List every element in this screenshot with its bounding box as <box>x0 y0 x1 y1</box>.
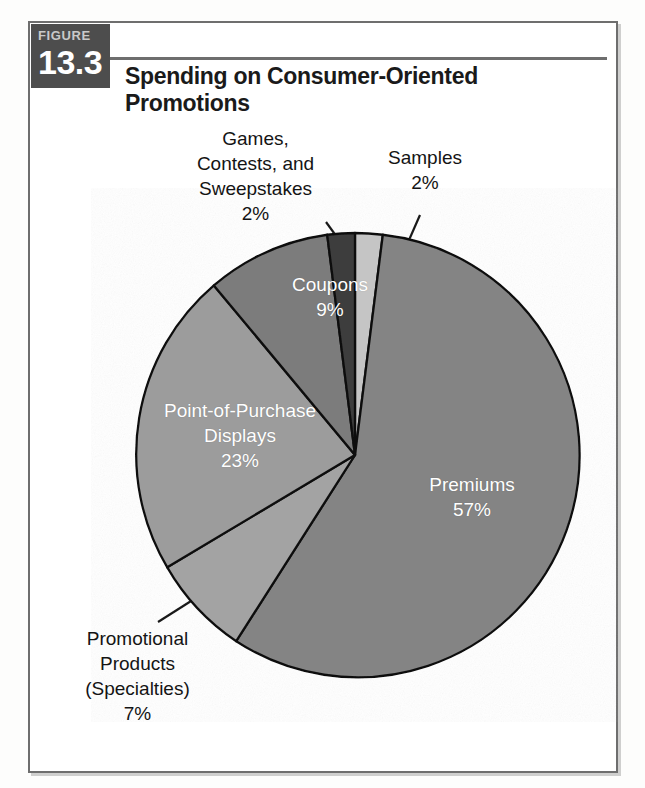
pie-label-pop-value: 23% <box>148 448 332 473</box>
pie-label-coupons-line-1: Coupons <box>262 272 398 297</box>
figure-number-label: 13.3 <box>38 44 110 80</box>
pie-label-samples-value: 2% <box>355 170 495 195</box>
pie-label-promotional-line-3: (Specialties) <box>30 676 245 701</box>
pie-label-samples-line-1: Samples <box>355 145 495 170</box>
figure-number-badge: FIGURE 13.3 <box>31 24 110 88</box>
chart-title: Spending on Consumer-Oriented Promotions <box>125 63 595 117</box>
pie-label-games-line-2: Contests, and <box>148 151 363 176</box>
pie-label-games-line-3: Sweepstakes <box>148 176 363 201</box>
pie-label-promotional-products: Promotional Products (Specialties) 7% <box>30 626 245 726</box>
figure-word-label: FIGURE <box>38 29 110 43</box>
pie-label-samples: Samples 2% <box>355 145 495 195</box>
pie-label-point-of-purchase-displays: Point-of-Purchase Displays 23% <box>148 398 332 473</box>
pie-label-coupons: Coupons 9% <box>262 272 398 322</box>
pie-label-games-contests-sweepstakes: Games, Contests, and Sweepstakes 2% <box>148 126 363 226</box>
pie-label-premiums: Premiums 57% <box>398 472 546 522</box>
pie-label-pop-line-1: Point-of-Purchase <box>148 398 332 423</box>
pie-label-premiums-line-1: Premiums <box>398 472 546 497</box>
pie-label-games-value: 2% <box>148 201 363 226</box>
pie-label-coupons-value: 9% <box>262 297 398 322</box>
pie-label-promotional-line-2: Products <box>30 651 245 676</box>
pie-label-promotional-line-1: Promotional <box>30 626 245 651</box>
pie-label-premiums-value: 57% <box>398 497 546 522</box>
title-divider <box>110 57 607 60</box>
pie-label-games-line-1: Games, <box>148 126 363 151</box>
pie-label-pop-line-2: Displays <box>148 423 332 448</box>
figure-container: FIGURE 13.3 Spending on Consumer-Oriente… <box>0 0 645 788</box>
pie-label-promotional-value: 7% <box>30 701 245 726</box>
